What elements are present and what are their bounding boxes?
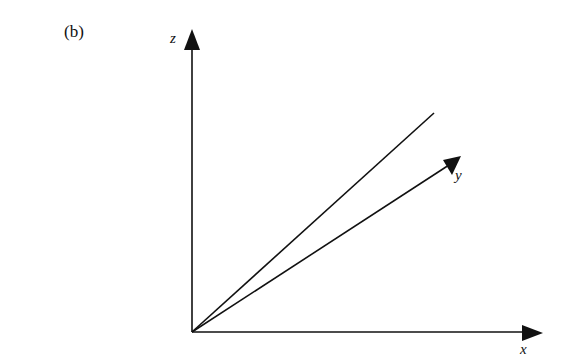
x-axis-label: x — [520, 341, 527, 358]
axes-diagram — [0, 0, 571, 362]
figure-canvas: (b) z y x — [0, 0, 571, 362]
y-axis-label: y — [455, 167, 462, 184]
z-axis-label: z — [170, 30, 176, 47]
x-arrowhead-icon — [522, 325, 543, 341]
y-axis — [192, 165, 449, 332]
z-arrowhead-icon — [184, 29, 200, 50]
unlabeled-line — [192, 113, 434, 332]
